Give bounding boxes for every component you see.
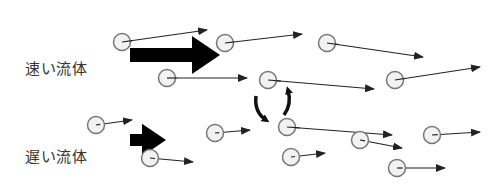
velocity-arrow [395, 67, 480, 80]
exchange-arrows [256, 90, 290, 120]
velocity-arrow [327, 43, 423, 57]
curved-arrow-up-icon [284, 90, 289, 115]
velocity-arrow [225, 34, 302, 43]
velocity-arrow [287, 127, 392, 135]
curved-arrow-down-icon [256, 96, 266, 120]
velocity-arrow [268, 80, 374, 89]
fast-flow-arrow [130, 36, 220, 74]
slow-fluid-label: 遅い流体 [25, 145, 87, 166]
flow-arrows [130, 36, 220, 156]
fast-fluid-label: 速い流体 [25, 57, 87, 78]
